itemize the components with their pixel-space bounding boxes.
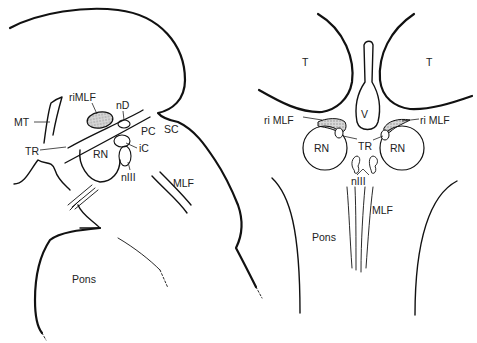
nerve-fibers bbox=[68, 185, 98, 210]
tr-right bbox=[381, 130, 389, 140]
dorsal-outline-dashed bbox=[256, 287, 262, 298]
right-panel-coronal: T T V ri MLF ri MLF TR RN RN nIII MLF Po… bbox=[259, 14, 472, 315]
nIII-left bbox=[352, 156, 360, 173]
label-RN: RN bbox=[93, 148, 108, 160]
label-V: V bbox=[361, 108, 368, 120]
nD-nucleus bbox=[118, 120, 130, 128]
anatomy-diagram: riMLF nD MT PC SC TR RN iC nIII MLF Pons bbox=[0, 0, 477, 343]
label-Pons: Pons bbox=[312, 231, 336, 243]
label-PC: PC bbox=[141, 125, 156, 137]
label-MLF: MLF bbox=[173, 177, 194, 189]
ventral-outline-upper bbox=[14, 160, 70, 190]
label-iC: iC bbox=[139, 142, 149, 154]
mlf-fibers bbox=[347, 187, 373, 272]
pons-boundary bbox=[118, 238, 160, 270]
label-RN-right: RN bbox=[390, 142, 405, 154]
label-nIII: nIII bbox=[121, 171, 136, 183]
label-SC: SC bbox=[164, 123, 179, 135]
label-MT: MT bbox=[14, 116, 30, 128]
nIII-nucleus bbox=[119, 146, 131, 166]
label-MLF: MLF bbox=[372, 204, 393, 216]
pons-outline-left bbox=[272, 178, 300, 313]
label-T-left: T bbox=[302, 56, 309, 68]
left-panel-sagittal: riMLF nD MT PC SC TR RN iC nIII MLF Pons bbox=[10, 9, 262, 340]
label-TR: TR bbox=[358, 140, 372, 152]
label-riMLF: riMLF bbox=[69, 91, 96, 103]
label-nD: nD bbox=[116, 99, 130, 111]
iC-nucleus bbox=[114, 135, 130, 147]
label-nIII: nIII bbox=[351, 175, 366, 187]
label-RN-left: RN bbox=[314, 142, 329, 154]
pons-outline-right bbox=[415, 181, 457, 315]
mt-tract bbox=[44, 97, 62, 143]
label-T-right: T bbox=[426, 56, 433, 68]
label-riMLF-right: ri MLF bbox=[420, 114, 450, 126]
label-TR: TR bbox=[25, 145, 39, 157]
label-Pons: Pons bbox=[72, 273, 96, 285]
tr-left bbox=[335, 128, 343, 138]
label-riMLF-left: ri MLF bbox=[264, 114, 294, 126]
nIII-right bbox=[369, 156, 377, 173]
